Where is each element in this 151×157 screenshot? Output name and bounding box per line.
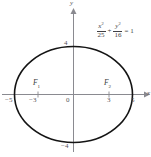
x-tick-label-pos3: 3 [107,97,111,104]
equation-term-1-numerator: x2 [97,23,104,31]
focus-label-1-subscript: 1 [38,84,41,89]
equation-term-2-numerator: y2 [114,23,121,31]
equation-term-2-denominator: 16 [113,32,122,40]
focus-label-1: F1 [33,79,40,89]
equation-term-1-exponent: 2 [101,21,103,26]
x-tick-label-neg3: −3 [29,97,36,104]
x-tick-label-neg5: −5 [5,97,12,104]
y-axis-arrow [71,8,77,14]
x-axis-label: x [147,90,150,97]
equation-term-2-exponent: 2 [118,21,120,26]
equation-operator: + [108,28,112,35]
equation-term-1-denominator: 25 [97,32,106,40]
equation-equals: = 1 [124,28,133,35]
equation-term-1: x2 25 [97,23,106,39]
equation-term-2: y2 16 [113,23,122,39]
y-tick-label-neg4: −4 [61,143,68,150]
ellipse-figure: x2 25 + y2 16 = 1 y x 0 −5 −3 3 5 4 −4 F… [0,0,151,157]
focus-label-2-subscript: 2 [109,84,112,89]
x-tick-label-pos5: 5 [131,97,135,104]
origin-label: 0 [66,97,70,104]
y-axis-label: y [70,0,73,7]
y-tick-label-pos4: 4 [64,40,68,47]
focus-label-2: F2 [104,79,111,89]
ellipse-equation: x2 25 + y2 16 = 1 [96,23,135,39]
